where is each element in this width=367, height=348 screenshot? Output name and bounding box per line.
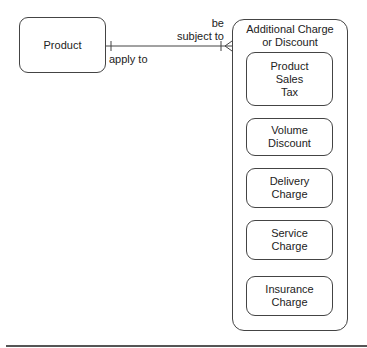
subtype-service-charge: Service Charge bbox=[246, 220, 333, 260]
subtype-volume-discount: Volume Discount bbox=[246, 118, 333, 156]
bottom-divider bbox=[6, 345, 367, 347]
subtype-delivery-charge: Delivery Charge bbox=[246, 168, 333, 208]
additional-charge-label: Additional Charge or Discount bbox=[233, 23, 347, 49]
subtype-insurance-charge: Insurance Charge bbox=[246, 276, 333, 316]
subtype-label: Service Charge bbox=[271, 227, 308, 253]
subtype-label: Volume Discount bbox=[268, 124, 311, 150]
relationship-label-be-subject-to: be subject to bbox=[176, 17, 224, 43]
subtype-label: Product Sales Tax bbox=[271, 60, 309, 99]
relationship-label-apply-to: apply to bbox=[109, 53, 148, 66]
subtype-label: Delivery Charge bbox=[270, 175, 310, 201]
subtype-label: Insurance Charge bbox=[265, 283, 313, 309]
subtype-product-sales-tax: Product Sales Tax bbox=[246, 52, 333, 106]
